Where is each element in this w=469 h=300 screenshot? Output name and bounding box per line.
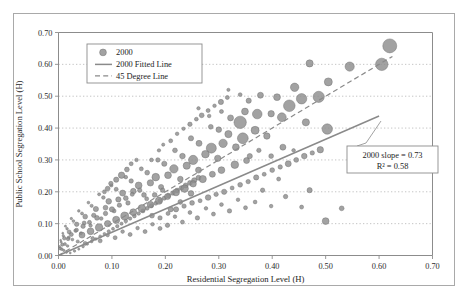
- data-point: [137, 212, 141, 216]
- data-point: [138, 205, 146, 213]
- scatter-plot: 0.000.100.200.300.400.500.600.700.000.10…: [0, 0, 469, 300]
- data-point: [113, 236, 117, 240]
- data-point: [236, 198, 240, 202]
- data-point: [290, 83, 298, 91]
- data-point: [225, 131, 232, 138]
- data-point: [114, 187, 118, 191]
- x-tick-label: 0.40: [265, 262, 280, 271]
- x-tick-label: 0.20: [158, 262, 173, 271]
- data-point: [204, 207, 208, 211]
- data-point: [81, 224, 85, 228]
- data-point: [123, 196, 128, 201]
- x-tick-label: 0.00: [51, 262, 66, 271]
- y-axis-title: Public School Segregation Level (H): [14, 80, 24, 207]
- data-point: [136, 226, 140, 230]
- data-point: [71, 238, 74, 241]
- data-point: [296, 94, 306, 104]
- data-point: [218, 99, 223, 104]
- fitted-line-2000: [59, 116, 380, 256]
- data-point: [78, 248, 80, 250]
- data-point: [166, 211, 170, 215]
- data-point: [222, 189, 227, 194]
- data-point: [73, 250, 75, 252]
- data-point: [81, 212, 84, 215]
- data-point: [173, 148, 178, 153]
- data-point: [213, 104, 217, 108]
- data-point: [61, 243, 64, 246]
- data-point: [69, 232, 73, 236]
- data-point: [145, 170, 150, 175]
- data-point: [139, 167, 143, 171]
- data-point: [280, 144, 286, 150]
- data-point: [70, 217, 72, 219]
- data-point: [128, 217, 131, 220]
- data-point: [158, 226, 162, 230]
- data-point: [103, 205, 108, 210]
- data-point: [219, 110, 223, 114]
- data-point: [269, 204, 273, 208]
- data-point: [162, 161, 167, 166]
- data-point: [231, 161, 239, 169]
- data-point: [74, 222, 78, 226]
- data-point: [118, 172, 124, 178]
- data-point: [59, 246, 61, 248]
- reference-line-45deg: [59, 56, 393, 255]
- data-point: [66, 237, 70, 241]
- data-point: [135, 182, 142, 189]
- data-point: [98, 239, 102, 243]
- data-point: [164, 194, 170, 200]
- data-point: [194, 117, 198, 121]
- data-point: [199, 113, 204, 118]
- data-point: [269, 154, 274, 159]
- data-point: [257, 148, 261, 152]
- data-point: [129, 162, 133, 166]
- data-point: [234, 116, 246, 128]
- data-point: [230, 186, 234, 190]
- data-point: [300, 205, 304, 209]
- data-point: [188, 211, 192, 215]
- data-point: [219, 139, 227, 147]
- data-point: [102, 196, 106, 200]
- x-axis-title: Residential Segregation Level (H): [187, 274, 305, 284]
- x-tick-label: 0.50: [318, 262, 333, 271]
- data-point: [62, 232, 64, 234]
- data-point: [247, 154, 252, 159]
- data-point: [129, 179, 133, 183]
- x-tick-label: 0.30: [212, 262, 227, 271]
- data-point: [95, 216, 100, 221]
- data-point: [199, 175, 206, 182]
- data-point: [124, 167, 129, 172]
- data-point: [99, 217, 103, 221]
- y-tick-label: 0.20: [38, 188, 53, 197]
- data-point: [183, 162, 190, 169]
- y-tick-label: 0.60: [38, 60, 53, 69]
- data-point: [188, 136, 193, 141]
- data-point: [345, 62, 354, 71]
- annotation-slope-text: 2000 slope = 0.73: [362, 151, 422, 160]
- data-point: [180, 220, 184, 224]
- legend-marker-point: [100, 49, 107, 56]
- data-point: [198, 199, 202, 203]
- data-point: [262, 172, 266, 176]
- data-point: [227, 88, 230, 91]
- data-point: [130, 192, 134, 196]
- data-point: [60, 241, 62, 243]
- data-point: [211, 212, 215, 216]
- x-tick-label: 0.10: [105, 262, 120, 271]
- data-point: [283, 194, 287, 198]
- data-point: [162, 143, 165, 146]
- data-point: [106, 199, 112, 205]
- data-point: [66, 227, 69, 230]
- data-point: [93, 206, 98, 211]
- data-point: [169, 139, 173, 143]
- data-point: [90, 204, 93, 207]
- data-point: [128, 232, 132, 236]
- data-point: [103, 211, 107, 215]
- data-point: [252, 109, 262, 119]
- data-point: [322, 124, 332, 134]
- data-point: [254, 175, 259, 180]
- data-point: [228, 115, 234, 121]
- data-point: [138, 188, 142, 192]
- data-point: [220, 203, 224, 207]
- data-point: [301, 153, 307, 159]
